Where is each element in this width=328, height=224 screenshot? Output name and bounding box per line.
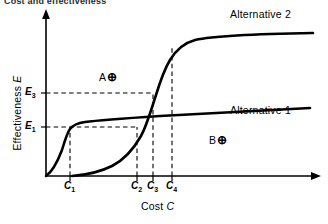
- guide-lines: [46, 47, 172, 176]
- x-tick-label-c4-subscript: 4: [173, 186, 177, 193]
- x-axis-label: Cost C: [141, 200, 174, 212]
- annotation-a: A ⊕: [99, 71, 117, 83]
- x-axis-arrowhead: [311, 172, 321, 180]
- y-axis-arrowhead: [42, 9, 50, 19]
- cost-effectiveness-figure: Cost and effectiveness: [0, 0, 328, 224]
- y-tick-label-e1: E1: [25, 120, 36, 133]
- y-tick-label-e3: E3: [25, 86, 36, 99]
- x-tick-label-c3-subscript: 3: [154, 186, 158, 193]
- circled-plus-icon: ⊕: [217, 134, 227, 146]
- curve-alternative-1: [46, 108, 310, 176]
- x-axis-label-symbol: C: [167, 200, 175, 212]
- x-tick-label-c1-subscript: 1: [71, 186, 75, 193]
- series-label-alternative-2: Alternative 2: [230, 8, 291, 20]
- annotation-a-letter: A: [99, 72, 106, 83]
- y-tick-label-e1-subscript: 1: [32, 126, 36, 133]
- y-tick-label-e3-symbol: E: [25, 86, 32, 97]
- x-tick-label-c2: C2: [131, 180, 142, 193]
- x-tick-label-c1: C1: [64, 180, 75, 193]
- y-axis-label-symbol: E: [11, 75, 23, 82]
- annotation-b: B ⊕: [209, 134, 227, 146]
- y-axis-label-prefix: Effectiveness: [11, 83, 23, 151]
- annotation-b-letter: B: [209, 135, 216, 146]
- y-tick-label-e3-subscript: 3: [32, 92, 36, 99]
- y-tick-label-e1-symbol: E: [25, 120, 32, 131]
- y-axis-label: Effectiveness E: [11, 63, 23, 163]
- x-tick-label-c3: C3: [147, 180, 158, 193]
- circled-plus-icon: ⊕: [107, 71, 117, 83]
- x-axis-label-prefix: Cost: [141, 200, 167, 212]
- series-label-alternative-1: Alternative 1: [230, 104, 291, 116]
- x-tick-label-c2-subscript: 2: [138, 186, 142, 193]
- x-tick-label-c4: C4: [166, 180, 177, 193]
